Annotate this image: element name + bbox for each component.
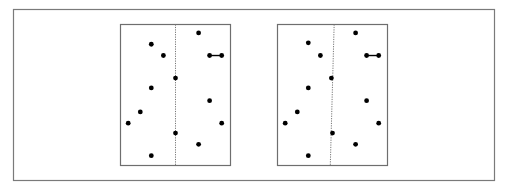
data-point: [306, 153, 311, 158]
data-point: [364, 53, 369, 58]
data-point: [353, 142, 358, 147]
divider-line: [330, 25, 334, 166]
data-point: [329, 76, 334, 81]
data-point: [173, 131, 178, 136]
data-point: [196, 142, 201, 147]
outer-frame: [14, 10, 495, 181]
data-point: [207, 98, 212, 103]
data-point: [149, 42, 154, 47]
data-point: [161, 53, 166, 58]
data-point: [283, 121, 288, 126]
data-point: [219, 121, 224, 126]
data-point: [376, 121, 381, 126]
data-point: [207, 53, 212, 58]
data-point: [126, 121, 131, 126]
diagram-svg: [0, 0, 506, 186]
data-point: [196, 31, 201, 36]
data-point: [173, 76, 178, 81]
data-point: [306, 86, 311, 91]
data-point: [306, 40, 311, 45]
data-point: [149, 153, 154, 158]
data-point: [318, 53, 323, 58]
data-point: [219, 53, 224, 58]
data-point: [295, 110, 300, 115]
diagram-canvas: [0, 0, 506, 186]
data-point: [376, 53, 381, 58]
data-point: [330, 131, 335, 136]
data-point: [138, 110, 143, 115]
data-point: [353, 31, 358, 36]
data-point: [364, 98, 369, 103]
panels-group: [121, 25, 388, 166]
data-point: [149, 86, 154, 91]
left-panel: [121, 25, 231, 166]
right-panel: [278, 25, 388, 166]
